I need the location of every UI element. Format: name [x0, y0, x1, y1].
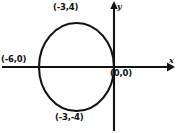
ellipse-graph-figure: (-3,4) (-6,0) (0,0) (-3,-4) y x	[0, 0, 177, 133]
graph-canvas	[0, 0, 177, 133]
point-label-bottom: (-3,-4)	[55, 113, 83, 122]
point-label-top: (-3,4)	[53, 3, 78, 12]
point-label-left: (-6,0)	[1, 55, 26, 64]
y-axis-label: y	[117, 2, 122, 10]
point-label-origin: (0,0)	[110, 69, 132, 78]
x-axis-label: x	[169, 56, 174, 64]
